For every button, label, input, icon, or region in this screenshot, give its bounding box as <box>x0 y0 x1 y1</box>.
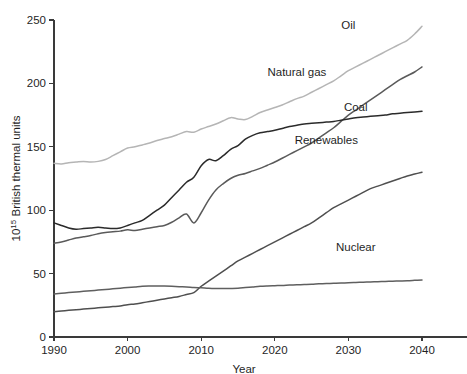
y-tick-label: 0 <box>40 331 46 343</box>
x-axis-ticks: 199020002010202020302040 <box>41 337 435 356</box>
series-label-oil: Oil <box>341 19 355 31</box>
series-label-natural-gas: Natural gas <box>267 66 326 78</box>
x-axis-title: Year <box>232 363 255 374</box>
y-tick-label: 50 <box>33 268 46 280</box>
x-tick-label: 2010 <box>188 344 214 356</box>
x-tick-label: 2020 <box>262 344 288 356</box>
series-label-coal: Coal <box>344 101 368 113</box>
series-line-natural-gas <box>54 67 422 243</box>
y-axis-title: 1015 British thermal units <box>9 115 22 241</box>
series-labels: OilNatural gasCoalRenewablesNuclear <box>267 19 375 253</box>
line-chart: 050100150200250 199020002010202020302040… <box>0 0 467 374</box>
series-line-oil <box>54 26 422 164</box>
y-tick-label: 150 <box>27 141 46 153</box>
series-lines <box>54 26 422 311</box>
y-tick-label: 100 <box>27 204 46 216</box>
y-tick-label: 250 <box>27 14 46 26</box>
series-line-coal <box>54 111 422 229</box>
y-axis-ticks: 050100150200250 <box>27 14 54 343</box>
y-tick-label: 200 <box>27 77 46 89</box>
series-label-renewables: Renewables <box>295 134 359 146</box>
x-tick-label: 1990 <box>41 344 67 356</box>
chart-container: 050100150200250 199020002010202020302040… <box>0 0 467 374</box>
y-axis-title-text: 1015 British thermal units <box>9 115 22 241</box>
series-line-nuclear <box>54 280 422 294</box>
axes-group <box>54 20 467 337</box>
series-label-nuclear: Nuclear <box>336 241 376 253</box>
x-tick-label: 2000 <box>115 344 141 356</box>
x-tick-label: 2030 <box>336 344 362 356</box>
x-tick-label: 2040 <box>409 344 435 356</box>
